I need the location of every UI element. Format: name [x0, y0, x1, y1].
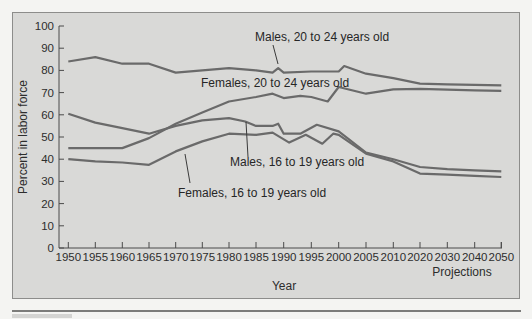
axes: 0102030405060708090100195019551960196519…: [35, 20, 514, 263]
x-tick-label: 2020: [407, 251, 433, 263]
series-label: Females, 20 to 24 years old: [201, 76, 349, 90]
x-axis-title: Year: [272, 279, 296, 293]
y-tick-label: 10: [41, 220, 54, 232]
x-tick-label: 1950: [56, 251, 82, 263]
label-leader-line: [246, 122, 248, 157]
series-label: Males, 20 to 24 years old: [255, 30, 389, 44]
y-tick-label: 0: [48, 242, 54, 254]
y-axis-title: Percent in labor force: [16, 80, 30, 194]
series-labels: Males, 20 to 24 years oldFemales, 20 to …: [178, 30, 389, 200]
x-tick-label: 1955: [83, 251, 109, 263]
x-tick-label: 1980: [216, 251, 242, 263]
x-tick-label: 2005: [353, 251, 379, 263]
series-label: Males, 16 to 19 years old: [230, 155, 364, 169]
x-tick-label: 1970: [163, 251, 189, 263]
y-tick-label: 100: [35, 20, 54, 32]
x-tick-label: 2010: [381, 251, 407, 263]
line-chart: 0102030405060708090100195019551960196519…: [0, 0, 532, 319]
label-leader-line: [185, 154, 190, 183]
y-tick-label: 50: [41, 131, 54, 143]
x-tick-label: 1975: [190, 251, 216, 263]
x-tick-label: 2000: [326, 251, 352, 263]
x-tick-label: 1960: [110, 251, 136, 263]
projections-label: Projections: [432, 265, 491, 279]
y-tick-label: 90: [41, 42, 54, 54]
y-tick-label: 30: [41, 175, 54, 187]
y-tick-label: 20: [41, 198, 54, 210]
series-label: Females, 16 to 19 years old: [178, 186, 326, 200]
label-leader-line: [273, 45, 278, 64]
x-tick-label: 2040: [462, 251, 488, 263]
x-tick-label: 2030: [435, 251, 461, 263]
y-tick-label: 80: [41, 64, 54, 76]
x-tick-label: 1990: [271, 251, 297, 263]
x-tick-label: 1965: [136, 251, 162, 263]
x-tick-label: 1995: [299, 251, 325, 263]
y-tick-label: 60: [41, 109, 54, 121]
x-tick-label: 2050: [489, 251, 515, 263]
y-tick-label: 40: [41, 153, 54, 165]
x-tick-label: 1985: [243, 251, 269, 263]
y-tick-label: 70: [41, 87, 54, 99]
